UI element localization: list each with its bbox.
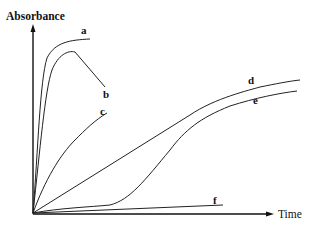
curve-e (33, 91, 297, 213)
curve-label-c: c (100, 105, 105, 117)
absorbance-time-diagram: Absorbance Time a b c d e f (0, 0, 316, 227)
curve-label-b: b (103, 88, 109, 100)
curve-label-a: a (81, 24, 87, 36)
curve-label-d: d (248, 74, 254, 86)
curve-c (33, 113, 107, 213)
curve-label-e: e (253, 94, 258, 106)
curve-a (33, 39, 90, 213)
curve-label-f: f (213, 194, 217, 206)
x-axis-arrow-icon (266, 212, 274, 217)
x-axis-label: Time (278, 208, 302, 220)
curve-d (33, 80, 300, 213)
curves (33, 39, 300, 213)
y-axis-arrow-icon (31, 24, 36, 32)
y-axis-label: Absorbance (6, 10, 65, 22)
